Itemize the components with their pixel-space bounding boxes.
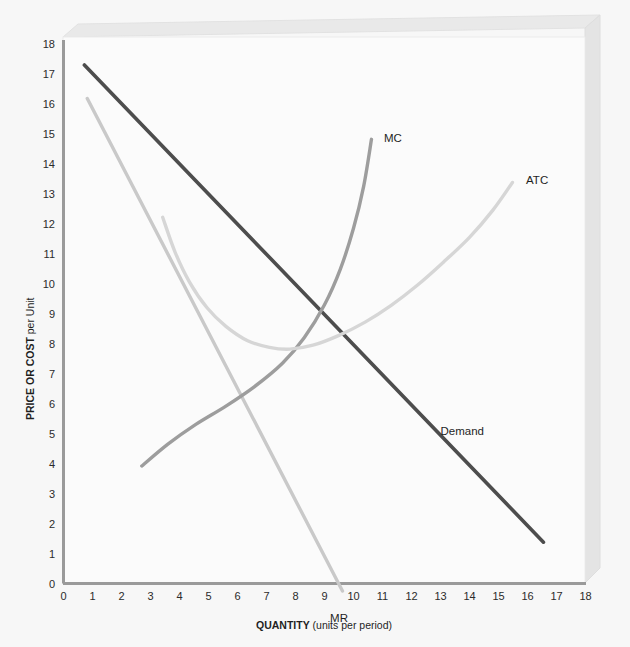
economics-monopoly-chart: 0123456789101112131415161718 01234567891… (0, 0, 630, 647)
chart-figure: 0123456789101112131415161718 01234567891… (0, 0, 630, 647)
y-tick-label: 15 (43, 128, 55, 140)
plot-3d-frame (63, 15, 600, 583)
y-tick-label: 10 (43, 278, 55, 290)
curve-label-demand: Demand (441, 425, 484, 437)
x-tick-label: 4 (176, 590, 182, 602)
y-tick-label: 5 (49, 428, 55, 440)
y-axis-title-bold: PRICE OR COST (24, 337, 36, 420)
x-tick-label: 11 (377, 590, 388, 602)
x-tick-label: 15 (492, 590, 504, 602)
x-tick-label: 0 (60, 590, 66, 602)
y-tick-label: 3 (49, 488, 55, 500)
x-tick-label: 17 (550, 590, 562, 602)
y-tick-label: 1 (49, 548, 55, 560)
y-tick-label: 2 (49, 518, 55, 530)
svg-text:PRICE OR COST per Unit: PRICE OR COST per Unit (24, 297, 36, 420)
x-tick-label: 16 (521, 590, 533, 602)
y-tick-label: 4 (49, 458, 55, 470)
x-tick-label: 14 (463, 590, 475, 602)
x-tick-label: 8 (292, 590, 298, 602)
y-tick-label: 13 (43, 188, 55, 200)
x-tick-label: 18 (579, 590, 591, 602)
x-tick-label: 9 (321, 590, 327, 602)
y-tick-label: 17 (43, 68, 55, 80)
y-axis-title: PRICE OR COST per Unit (24, 297, 36, 420)
x-tick-label: 7 (263, 590, 269, 602)
x-tick-label: 3 (147, 590, 153, 602)
x-axis-title-bold: QUANTITY (256, 619, 310, 631)
y-tick-label: 18 (43, 38, 55, 50)
x-axis-tick-labels: 0123456789101112131415161718 (60, 590, 591, 602)
x-tick-label: 10 (347, 590, 359, 602)
x-tick-label: 5 (205, 590, 211, 602)
x-tick-label: 6 (234, 590, 240, 602)
x-tick-label: 2 (118, 590, 124, 602)
y-tick-label: 14 (43, 158, 55, 170)
x-tick-label: 13 (434, 590, 446, 602)
x-tick-label: 12 (405, 590, 417, 602)
svg-text:QUANTITY (units per period): QUANTITY (units per period) (256, 619, 392, 631)
curve-label-mc: MC (384, 132, 402, 144)
y-tick-label: 9 (49, 308, 55, 320)
y-tick-label: 11 (44, 248, 55, 260)
curve-label-atc: ATC (526, 174, 548, 186)
y-tick-label: 16 (43, 98, 55, 110)
x-tick-label: 1 (89, 590, 95, 602)
y-tick-label: 7 (49, 368, 55, 380)
y-tick-label: 0 (49, 578, 55, 590)
y-axis-tick-labels: 0123456789101112131415161718 (43, 38, 55, 590)
x-axis-title: QUANTITY (units per period) (256, 619, 392, 631)
y-tick-label: 8 (49, 338, 55, 350)
y-tick-label: 6 (49, 398, 55, 410)
x-axis-title-regular: (units per period) (310, 619, 392, 631)
y-axis-title-regular: per Unit (24, 297, 36, 337)
y-tick-label: 12 (43, 218, 55, 230)
